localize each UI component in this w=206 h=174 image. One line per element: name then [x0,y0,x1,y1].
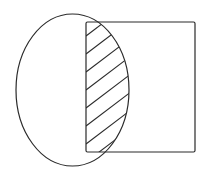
hatch-line [86,106,136,144]
hatch-line [86,124,136,162]
hatch-line [86,0,136,36]
hatch-line [86,34,136,72]
ellipse-shape [16,14,129,166]
venn-diagram [0,0,206,174]
hatch-line [86,142,136,174]
